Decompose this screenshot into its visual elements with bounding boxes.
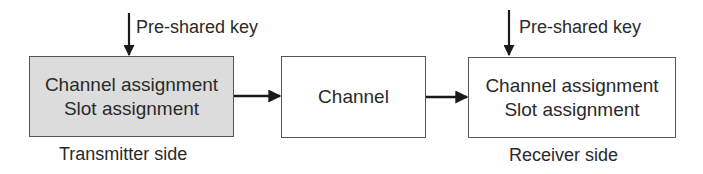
rx-line-channel-assignment: Channel assignment [485,74,658,98]
rx-key-label: Pre-shared key [519,17,641,38]
receiver-box: Channel assignment Slot assignment [468,57,676,138]
transmitter-caption: Transmitter side [59,144,187,165]
transmitter-box: Channel assignment Slot assignment [29,56,234,137]
receiver-caption: Receiver side [509,145,618,166]
channel-box: Channel [281,56,426,138]
tx-line-channel-assignment: Channel assignment [45,73,218,97]
tx-line-slot-assignment: Slot assignment [64,97,199,121]
channel-label: Channel [318,85,389,109]
tx-key-label: Pre-shared key [136,17,258,38]
rx-line-slot-assignment: Slot assignment [504,98,639,122]
